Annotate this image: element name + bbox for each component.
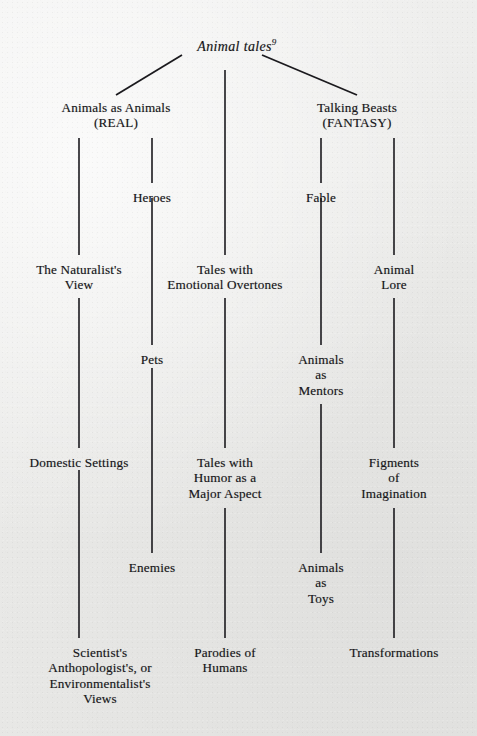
node-views-line-0: Scientist's: [48, 645, 151, 660]
node-figments: FigmentsofImagination: [361, 455, 426, 501]
node-root-line-0: Animal tales9: [197, 37, 276, 55]
edge-root-to-real: [116, 55, 182, 95]
node-pets: Pets: [141, 352, 164, 367]
node-transform: Transformations: [350, 645, 439, 660]
node-domestic: Domestic Settings: [30, 455, 129, 470]
node-mentors-line-2: Mentors: [298, 383, 344, 398]
node-humor-line-2: Major Aspect: [188, 486, 261, 501]
node-figments-line-2: Imagination: [361, 486, 426, 501]
node-emotional-line-1: Emotional Overtones: [167, 277, 282, 292]
node-naturalist-line-0: The Naturalist's: [36, 262, 122, 277]
node-heroes-line-0: Heroes: [133, 190, 171, 205]
node-real-line-0: Animals as Animals: [62, 100, 171, 115]
node-lore-line-0: Animal: [374, 262, 414, 277]
node-mentors-line-1: as: [298, 367, 344, 382]
node-humor-line-0: Tales with: [188, 455, 261, 470]
node-heroes: Heroes: [133, 190, 171, 205]
node-parodies-line-0: Parodies of: [194, 645, 255, 660]
node-fantasy-line-0: Talking Beasts: [317, 100, 397, 115]
node-views-line-3: Views: [48, 691, 151, 706]
node-root: Animal tales9: [197, 37, 276, 55]
node-enemies-line-0: Enemies: [129, 560, 175, 575]
node-humor-line-1: Humor as a: [188, 470, 261, 485]
node-parodies-line-1: Humans: [194, 660, 255, 675]
node-fantasy-line-1: (FANTASY): [317, 115, 397, 130]
node-toys-line-1: as: [298, 575, 344, 590]
node-lore-line-1: Lore: [374, 277, 414, 292]
node-figments-line-1: of: [361, 470, 426, 485]
node-views-line-1: Anthopologist's, or: [48, 660, 151, 675]
node-fable: Fable: [306, 190, 336, 205]
node-figments-line-0: Figments: [361, 455, 426, 470]
node-lore: AnimalLore: [374, 262, 414, 293]
node-domestic-line-0: Domestic Settings: [30, 455, 129, 470]
node-real: Animals as Animals(REAL): [62, 100, 171, 131]
node-naturalist: The Naturalist'sView: [36, 262, 122, 293]
node-toys-line-2: Toys: [298, 591, 344, 606]
node-fable-line-0: Fable: [306, 190, 336, 205]
node-toys-line-0: Animals: [298, 560, 344, 575]
node-real-line-1: (REAL): [62, 115, 171, 130]
node-mentors: AnimalsasMentors: [298, 352, 344, 398]
node-parodies: Parodies ofHumans: [194, 645, 255, 676]
node-pets-line-0: Pets: [141, 352, 164, 367]
node-root-footnote-marker: 9: [272, 37, 277, 47]
node-humor: Tales withHumor as aMajor Aspect: [188, 455, 261, 501]
node-views: Scientist'sAnthopologist's, orEnvironmen…: [48, 645, 151, 706]
node-views-line-2: Environmentalist's: [48, 676, 151, 691]
node-emotional: Tales withEmotional Overtones: [167, 262, 282, 293]
node-fantasy: Talking Beasts(FANTASY): [317, 100, 397, 131]
node-emotional-line-0: Tales with: [167, 262, 282, 277]
node-transform-line-0: Transformations: [350, 645, 439, 660]
edge-root-to-fantasy: [262, 55, 357, 95]
node-mentors-line-0: Animals: [298, 352, 344, 367]
node-toys: AnimalsasToys: [298, 560, 344, 606]
node-naturalist-line-1: View: [36, 277, 122, 292]
node-enemies: Enemies: [129, 560, 175, 575]
